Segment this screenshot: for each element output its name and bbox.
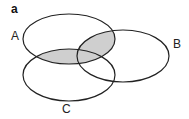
shaded-region xyxy=(23,30,169,101)
set-a-label: A xyxy=(11,29,19,43)
venn-diagram xyxy=(0,0,189,119)
set-b-label: B xyxy=(173,37,181,51)
set-c-label: C xyxy=(62,102,71,116)
